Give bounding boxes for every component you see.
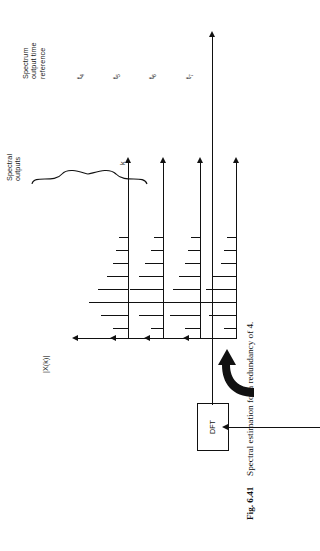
figure-caption: Fig. 6.41 Spectral estimation for a redu… [245,322,255,520]
spectral-outputs-label: Spectral outputs [6,154,23,181]
buffer-to-dft-arrowhead [222,425,228,431]
rotated-figure-canvas: Spectrum output time reference Spectral … [0,0,270,551]
dft-block-label: DFT [209,420,218,434]
figure-caption-number: Fig. 6.41 [245,487,255,520]
time-mark-t7-spectrum: t7 [185,74,195,79]
dft-output-line [212,35,213,405]
figure-body: Spectrum output time reference Spectral … [0,0,270,551]
magnitude-axis-label: |X(k)| [42,355,50,373]
time-mark-t5-spectrum: t5 [112,74,122,79]
figure-caption-text: Spectral estimation for a redundancy of … [245,322,255,476]
spectrum-output-time-reference-label: Spectrum output time reference [22,42,47,79]
dft-output-arrowhead [209,31,215,37]
spectral-outputs-brace [30,160,150,186]
time-mark-t6-spectrum: t6 [148,74,158,79]
figure-page: Spectrum output time reference Spectral … [0,0,270,551]
time-mark-t4-spectrum: t4 [76,74,86,79]
